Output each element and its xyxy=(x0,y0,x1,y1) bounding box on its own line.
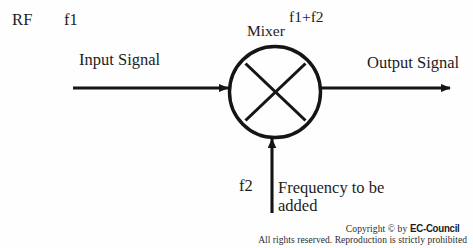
copyright-prefix: Copyright © by xyxy=(346,224,410,234)
diagram-canvas: RF f1 Input Signal Mixer f1+f2 Output Si… xyxy=(0,0,473,248)
label-f2: f2 xyxy=(239,177,253,194)
mixer-diagram-graphics xyxy=(0,0,473,248)
footer: Copyright © by EC-Council All rights res… xyxy=(258,222,467,245)
label-frequency-line-1: Frequency to be xyxy=(278,179,384,197)
label-rf: RF xyxy=(12,11,33,28)
label-mixer: Mixer xyxy=(247,23,285,39)
label-input-signal: Input Signal xyxy=(79,51,160,68)
label-frequency-line-2: added xyxy=(278,197,384,215)
rights-reserved-line: All rights reserved. Reproduction is str… xyxy=(258,235,467,245)
copyright-line: Copyright © by EC-Council xyxy=(258,222,467,234)
label-frequency-to-be-added: Frequency to be added xyxy=(278,179,384,214)
label-output-signal: Output Signal xyxy=(367,54,459,71)
label-f1-plus-f2: f1+f2 xyxy=(289,9,324,25)
label-f1: f1 xyxy=(64,11,78,28)
ec-council-brand: EC-Council xyxy=(410,222,460,234)
